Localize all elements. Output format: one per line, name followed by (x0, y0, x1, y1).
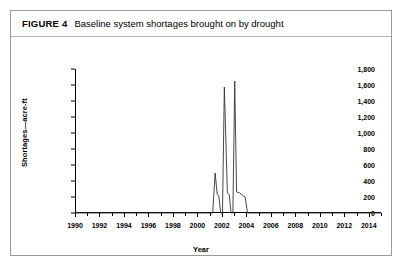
x-tick-mark (295, 213, 296, 217)
x-tick-mark (222, 213, 223, 217)
x-tick-label: 2008 (288, 222, 304, 229)
x-tick-label: 2004 (239, 222, 255, 229)
x-tick-mark (369, 213, 370, 217)
x-tick-mark-minor (381, 213, 382, 216)
x-tick-mark (271, 213, 272, 217)
y-axis-label: Shortages—acre-ft (17, 63, 31, 203)
x-tick-mark (197, 213, 198, 217)
x-tick-mark (344, 213, 345, 217)
x-tick-mark (124, 213, 125, 217)
figure-label: FIGURE 4 (22, 18, 67, 29)
x-tick-mark (173, 213, 174, 217)
x-axis-label: Year (11, 245, 391, 254)
x-tick-mark (99, 213, 100, 217)
figure-caption: Baseline system shortages brought on by … (74, 18, 283, 29)
x-tick-mark (75, 213, 76, 217)
x-tick-label: 1994 (116, 222, 132, 229)
figure-header: FIGURE 4 Baseline system shortages broug… (11, 11, 391, 37)
x-tick-label: 2002 (214, 222, 230, 229)
figure-frame: FIGURE 4 Baseline system shortages broug… (10, 10, 392, 256)
x-tick-label: 2006 (263, 222, 279, 229)
x-tick-mark (246, 213, 247, 217)
x-tick-mark-minor (234, 213, 235, 216)
x-tick-label: 1998 (165, 222, 181, 229)
x-tick-mark (320, 213, 321, 217)
x-tick-label: 2014 (361, 222, 377, 229)
x-tick-label: 1996 (141, 222, 157, 229)
x-tick-label: 1990 (67, 222, 83, 229)
x-tick-mark (148, 213, 149, 217)
x-tick-label: 2012 (336, 222, 352, 229)
x-tick-label: 2010 (312, 222, 328, 229)
chart-axes: 02004006008001,0001,2001,4001,6001,800 1… (75, 69, 381, 213)
x-tick-label: 2000 (190, 222, 206, 229)
x-tick-label: 1992 (92, 222, 108, 229)
shortages-series-line (75, 69, 381, 213)
chart-plot-area: Shortages—acre-ft 02004006008001,0001,20… (11, 37, 391, 255)
